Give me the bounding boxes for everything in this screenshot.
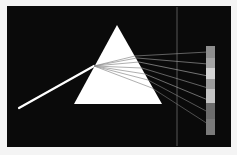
- spectrum-band: [206, 89, 215, 103]
- prism-diagram: [0, 0, 237, 155]
- dispersed-ray: [142, 68, 208, 88]
- prism-triangle: [74, 25, 162, 104]
- spectrum-band: [206, 103, 215, 119]
- spectrum-band: [206, 119, 215, 135]
- dispersed-ray: [137, 58, 208, 64]
- spectrum-band: [206, 68, 215, 79]
- spectrum-band: [206, 58, 215, 68]
- dispersed-ray: [139, 62, 208, 76]
- spectrum-band: [206, 79, 215, 89]
- dispersed-ray: [135, 52, 208, 56]
- spectrum-band: [206, 46, 215, 58]
- dispersed-ray: [152, 88, 208, 124]
